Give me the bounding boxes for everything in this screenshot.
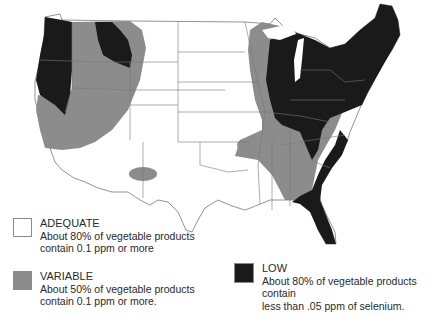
region-variable-arkansas: [237, 137, 273, 153]
legend-desc-line: less than .05 ppm of selenium.: [262, 300, 443, 313]
swatch-variable: [13, 271, 32, 290]
legend-desc-line: About 80% of vegetable products contain: [262, 275, 443, 300]
legend-variable: VARIABLE About 50% of vegetable products…: [13, 270, 195, 308]
legend-desc-line: About 80% of vegetable products: [40, 230, 195, 243]
legend-title: LOW: [262, 262, 443, 275]
legend-low: LOW About 80% of vegetable products cont…: [234, 262, 443, 312]
legend-desc-line: contain 0.1 ppm or more: [40, 242, 195, 255]
swatch-low: [234, 263, 254, 283]
legend-desc-line: contain 0.1 ppm or more.: [40, 295, 195, 308]
legend-title: VARIABLE: [40, 270, 195, 283]
swatch-adequate: [13, 218, 32, 237]
legend-desc-line: About 50% of vegetable products: [40, 283, 195, 296]
legend-title: ADEQUATE: [40, 217, 195, 230]
legend-adequate: ADEQUATE About 80% of vegetable products…: [13, 217, 195, 255]
